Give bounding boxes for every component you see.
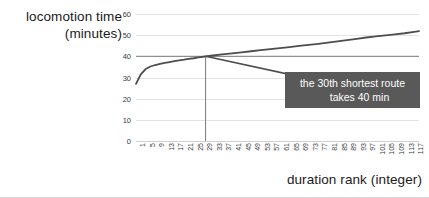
y-axis-title-line2: (minutes) xyxy=(4,25,122,42)
y-axis-title-line1: locomotion time xyxy=(4,8,122,25)
x-tick-53: 53 xyxy=(264,143,271,151)
x-axis-title: duration rank (integer) xyxy=(0,172,422,187)
y-axis-title: locomotion time (minutes) xyxy=(4,8,122,42)
x-tick-21: 21 xyxy=(187,143,194,151)
x-tick-57: 57 xyxy=(273,143,280,151)
x-tick-13: 13 xyxy=(168,143,175,151)
x-tick-61: 61 xyxy=(283,143,290,151)
x-tick-97: 97 xyxy=(369,143,376,151)
x-tick-49: 49 xyxy=(254,143,261,151)
x-tick-9: 9 xyxy=(158,143,165,147)
y-tick-20: 20 xyxy=(123,94,131,103)
x-tick-25: 25 xyxy=(197,143,204,151)
x-tick-29: 29 xyxy=(206,143,213,151)
x-tick-41: 41 xyxy=(235,143,242,151)
x-tick-85: 85 xyxy=(341,143,348,151)
x-tick-93: 93 xyxy=(360,143,367,151)
x-tick-33: 33 xyxy=(216,143,223,151)
x-tick-89: 89 xyxy=(350,143,357,151)
x-tick-77: 77 xyxy=(321,143,328,151)
x-tick-105: 105 xyxy=(388,143,395,155)
y-tick-10: 10 xyxy=(123,115,131,124)
x-tick-117: 117 xyxy=(417,143,424,154)
x-tick-73: 73 xyxy=(312,143,319,151)
y-tick-60: 60 xyxy=(123,10,131,19)
x-tick-101: 101 xyxy=(379,143,386,155)
callout-line-2: takes 40 min xyxy=(316,90,390,104)
y-tick-50: 50 xyxy=(123,31,131,40)
callout-30th-route: the 30th shortest route takes 40 min xyxy=(285,72,420,108)
callout-line-1: the 30th shortest route xyxy=(300,76,405,90)
x-tick-65: 65 xyxy=(293,143,300,151)
x-tick-113: 113 xyxy=(408,143,415,154)
chart-figure: locomotion time (minutes) 0102030405060 … xyxy=(0,0,429,198)
x-axis-tick-labels: 1591317212529333741454953576165697377818… xyxy=(136,143,419,169)
x-tick-109: 109 xyxy=(398,143,405,155)
x-tick-5: 5 xyxy=(149,143,156,147)
x-tick-81: 81 xyxy=(331,143,338,151)
x-tick-37: 37 xyxy=(225,143,232,151)
y-tick-0: 0 xyxy=(127,137,131,146)
x-tick-1: 1 xyxy=(139,143,146,147)
y-tick-40: 40 xyxy=(123,52,131,61)
x-tick-17: 17 xyxy=(177,143,184,151)
y-tick-30: 30 xyxy=(123,73,131,82)
x-tick-45: 45 xyxy=(245,143,252,151)
x-tick-69: 69 xyxy=(302,143,309,151)
